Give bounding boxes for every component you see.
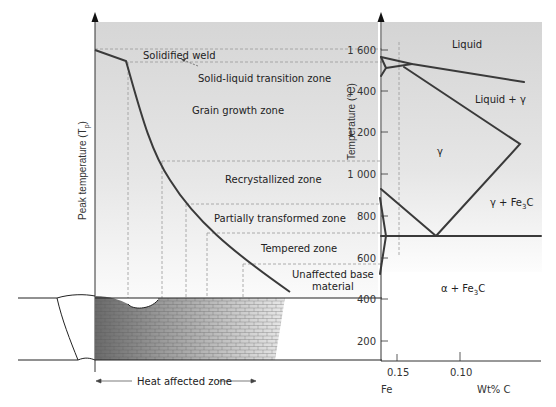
phase-liquid: Liquid	[452, 39, 482, 50]
arrow-up-icon	[378, 12, 385, 22]
left-panel-background	[95, 22, 378, 298]
y-tick-200: 200	[357, 336, 376, 347]
zone-label-partially-transformed: Partially transformed zone	[214, 213, 346, 224]
weld-cross-section	[18, 295, 382, 360]
haz-diagram: Solidified weld Solid-liquid transition …	[0, 0, 556, 407]
arrow-up-icon	[92, 12, 99, 22]
y-tick-400: 400	[357, 294, 376, 305]
zone-label-solid-liquid: Solid-liquid transition zone	[198, 73, 331, 84]
phase-gamma: γ	[437, 146, 443, 157]
zone-label-unaffected-1: Unaffected base	[292, 269, 374, 280]
left-y-axis-label: Peak temperature (Tp)	[77, 121, 91, 220]
x-tick-015: 0.15	[387, 367, 409, 378]
haz-label: Heat affected zone	[137, 376, 232, 387]
zone-label-solidified-weld: Solidified weld	[143, 50, 216, 61]
right-y-axis-label: Temperature (°C)	[346, 83, 357, 160]
y-tick-600: 600	[357, 253, 376, 264]
phase-liquid-gamma: Liquid + γ	[475, 94, 526, 105]
zone-label-recrystallized: Recrystallized zone	[225, 174, 322, 185]
x-tick-010: 0.10	[450, 367, 472, 378]
zone-label-tempered: Tempered zone	[260, 243, 337, 254]
x-origin-fe: Fe	[381, 384, 392, 395]
zone-label-unaffected-2: material	[312, 281, 354, 292]
y-tick-1600: 1 600	[347, 45, 376, 56]
y-tick-800: 800	[357, 211, 376, 222]
zone-label-grain-growth: Grain growth zone	[192, 105, 284, 116]
phase-alpha-fe3c: α + Fe3C	[441, 283, 485, 297]
x-axis-label: Wt% C	[477, 384, 510, 395]
y-tick-1000: 1 000	[347, 169, 376, 180]
